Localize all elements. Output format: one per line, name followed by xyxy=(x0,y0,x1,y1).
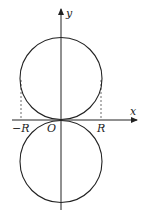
origin-label: O xyxy=(47,122,56,135)
pos-r-label: R xyxy=(96,122,105,135)
x-axis-label: x xyxy=(130,105,137,118)
y-axis-label: y xyxy=(65,7,73,20)
diagram-canvas: x y O −R R xyxy=(0,0,147,219)
neg-r-label: −R xyxy=(12,122,30,135)
